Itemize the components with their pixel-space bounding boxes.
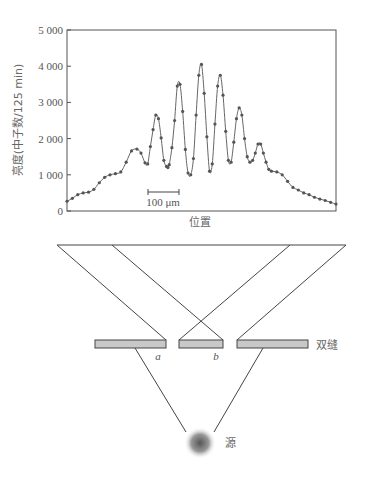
data-point	[166, 166, 169, 169]
data-point	[103, 176, 106, 179]
interference-plot: 01 0002 0003 0004 0005 000 100 μm 位置 亮度(…	[11, 24, 338, 229]
data-point	[82, 191, 85, 194]
data-point	[267, 168, 270, 171]
data-point	[254, 151, 257, 154]
data-point	[192, 157, 195, 160]
source-label: 源	[225, 436, 236, 450]
data-point	[248, 161, 251, 164]
plot-frame	[67, 30, 336, 211]
data-point	[318, 197, 321, 200]
source-ray-right	[214, 348, 263, 432]
data-point	[270, 170, 273, 173]
data-point	[181, 110, 184, 113]
data-point	[154, 113, 157, 116]
data-point	[151, 128, 154, 131]
slit-bar-left	[95, 340, 166, 348]
y-tick-label: 0	[58, 205, 64, 217]
data-point	[227, 159, 230, 162]
data-point	[297, 188, 300, 191]
data-point	[119, 170, 122, 173]
data-point	[219, 74, 222, 77]
y-tick-label: 5 000	[38, 24, 63, 36]
data-point	[76, 193, 79, 196]
data-point	[275, 170, 278, 173]
data-point	[195, 113, 198, 116]
data-point	[221, 94, 224, 97]
y-tick-label: 1 000	[38, 169, 63, 181]
data-point	[162, 159, 165, 162]
data-point	[313, 196, 316, 199]
data-point	[251, 159, 254, 162]
slit-bar-middle	[179, 340, 223, 348]
data-point	[114, 172, 117, 175]
data-point	[71, 197, 74, 200]
data-point	[211, 162, 214, 165]
data-point	[170, 146, 173, 149]
data-point	[291, 186, 294, 189]
figure: 01 0002 0003 0004 0005 000 100 μm 位置 亮度(…	[0, 0, 368, 480]
scale-bar-label: 100 μm	[146, 196, 180, 208]
data-point	[65, 200, 68, 203]
data-point	[108, 173, 111, 176]
source-icon	[184, 427, 216, 459]
data-point	[189, 173, 192, 176]
double-slit-label: 双缝	[316, 338, 338, 352]
data-point	[98, 181, 101, 184]
data-point	[146, 162, 149, 165]
data-point	[329, 201, 332, 204]
double-slit-diagram	[57, 245, 346, 432]
ray-a-right	[179, 245, 290, 340]
data-point	[149, 145, 152, 148]
y-axis-label: 亮度(中子数/125 min)	[11, 64, 25, 177]
slit-a-label: a	[155, 350, 161, 362]
data-point	[281, 173, 284, 176]
y-tick-label: 4 000	[38, 60, 63, 72]
data-point	[243, 137, 246, 140]
data-point	[178, 83, 181, 86]
data-point	[125, 161, 128, 164]
data-point	[197, 74, 200, 77]
ray-a-left	[57, 245, 166, 340]
slit-b-label: b	[213, 350, 219, 362]
y-tick-label: 2 000	[38, 133, 63, 145]
data-point	[302, 191, 305, 194]
data-point	[235, 117, 238, 120]
data-point	[176, 85, 179, 88]
data-point	[213, 123, 216, 126]
data-point	[200, 63, 203, 66]
data-point	[334, 203, 337, 206]
data-point	[205, 135, 208, 138]
intensity-curve	[67, 64, 336, 205]
data-point	[286, 180, 289, 183]
data-point	[259, 142, 262, 145]
data-point	[238, 106, 241, 109]
data-point	[264, 161, 267, 164]
data-point	[160, 136, 163, 139]
ray-b-left	[112, 245, 223, 340]
data-point	[308, 193, 311, 196]
data-point	[262, 151, 265, 154]
data-point	[232, 141, 235, 144]
data-point	[130, 149, 133, 152]
data-point	[246, 155, 249, 158]
data-point	[135, 147, 138, 150]
data-point	[240, 113, 243, 116]
scale-bar: 100 μm	[146, 189, 180, 208]
y-axis-ticks: 01 0002 0003 0004 0005 000	[38, 24, 71, 217]
data-point	[173, 119, 176, 122]
ray-b-right	[237, 245, 346, 340]
data-series	[65, 63, 337, 206]
data-point	[216, 85, 219, 88]
data-point	[203, 92, 206, 95]
data-point	[324, 199, 327, 202]
y-tick-label: 3 000	[38, 96, 63, 108]
data-point	[139, 151, 142, 154]
data-point	[208, 170, 211, 173]
data-point	[229, 161, 232, 164]
x-axis-label: 位置	[189, 215, 211, 229]
data-point	[168, 163, 171, 166]
data-point	[157, 117, 160, 120]
data-point	[92, 188, 95, 191]
data-point	[186, 171, 189, 174]
slit-bar-right	[237, 340, 308, 348]
